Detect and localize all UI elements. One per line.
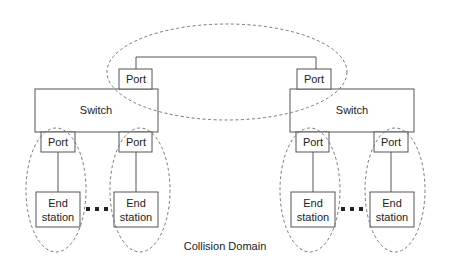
end-station-label-line1: End [303, 197, 323, 209]
end-station-label-line2: station [376, 211, 408, 223]
switch-right: Switch Port Port Port End station End st… [290, 69, 414, 227]
end-station-label-line2: station [297, 211, 329, 223]
end-station-label-line1: End [48, 197, 68, 209]
uplink-port-label: Port [304, 73, 324, 85]
port-label: Port [381, 136, 401, 148]
ellipsis-dots [86, 207, 108, 211]
network-diagram: Switch Port Port Port End station End st… [0, 0, 453, 267]
switch-to-switch-link [136, 57, 316, 69]
switch-label: Switch [80, 104, 112, 116]
end-station-label-line2: station [42, 211, 74, 223]
caption-collision-domain: Collision Domain [184, 240, 267, 252]
port-label: Port [126, 136, 146, 148]
switch-label: Switch [336, 104, 368, 116]
end-station-label-line1: End [382, 197, 402, 209]
switch-left: Switch Port Port Port End station End st… [35, 69, 158, 227]
end-station-label-line1: End [126, 197, 146, 209]
ellipsis-dots [341, 207, 363, 211]
port-label: Port [48, 136, 68, 148]
port-label: Port [303, 136, 323, 148]
uplink-port-label: Port [126, 73, 146, 85]
end-station-label-line2: station [120, 211, 152, 223]
